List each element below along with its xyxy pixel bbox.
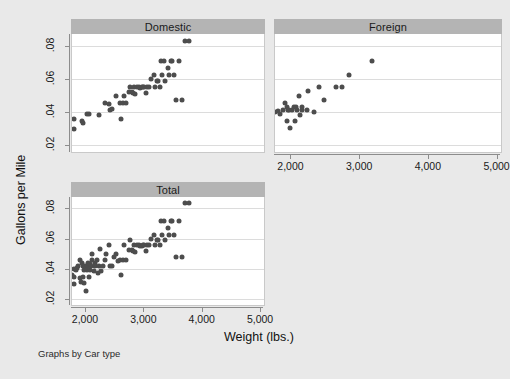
y-tick-label-0: .02 (44, 287, 56, 309)
data-point (177, 219, 182, 224)
data-point (339, 84, 344, 89)
graph-note: Graphs by Car type (38, 348, 120, 359)
data-point (316, 84, 321, 89)
y-tick-2 (65, 239, 69, 240)
data-point (84, 289, 89, 294)
stata-graph-canvas: Gallons per Mile Weight (lbs.) Graphs by… (0, 0, 510, 379)
data-point (81, 120, 86, 125)
data-point (124, 101, 129, 106)
gridline-y-3 (275, 46, 501, 47)
data-point (133, 91, 138, 96)
data-point (162, 219, 167, 224)
data-point (170, 58, 175, 63)
data-point (114, 93, 119, 98)
x-tick-3 (497, 155, 498, 159)
x-tick-label-3: 5,000 (238, 313, 282, 325)
data-point (97, 112, 102, 117)
x-tick-label-2: 4,000 (406, 160, 450, 172)
data-point (152, 73, 157, 78)
x-tick-0 (290, 155, 291, 159)
data-point (322, 97, 327, 102)
data-point (143, 248, 148, 253)
y-tick-0 (65, 299, 69, 300)
panel-title-domestic: Domestic (71, 19, 265, 34)
y-tick-label-0: .02 (44, 133, 56, 155)
x-axis-line-foreign (274, 154, 500, 155)
data-point (127, 238, 132, 243)
data-point (72, 117, 77, 122)
data-point (334, 84, 339, 89)
data-point (162, 58, 167, 63)
data-point (173, 255, 178, 260)
y-tick-label-1: .04 (44, 100, 56, 122)
data-point (177, 58, 182, 63)
y-tick-2 (65, 79, 69, 80)
y-tick-0 (65, 145, 69, 146)
data-point (305, 89, 310, 94)
data-point (156, 79, 161, 84)
x-tick-label-3: 5,000 (475, 160, 510, 172)
data-point (107, 243, 112, 248)
data-point (86, 275, 91, 280)
panel-domestic: Domestic (71, 19, 265, 153)
data-point (82, 281, 87, 286)
y-tick-label-1: .04 (44, 257, 56, 279)
y-axis-line-total (69, 197, 70, 305)
x-tick-label-1: 3,000 (121, 313, 165, 325)
data-point (186, 201, 191, 206)
plot-area-foreign (274, 34, 502, 153)
gridline-y-2 (275, 79, 501, 80)
data-point (173, 97, 178, 102)
x-axis-title: Weight (lbs.) (224, 330, 294, 344)
data-point (297, 93, 302, 98)
data-point (119, 273, 124, 278)
panel-total: Total (71, 182, 265, 306)
data-point (165, 226, 170, 231)
data-point (98, 247, 103, 252)
data-point (312, 110, 317, 115)
y-tick-1 (65, 112, 69, 113)
data-point (99, 269, 104, 274)
data-point (170, 219, 175, 224)
x-tick-2 (428, 155, 429, 159)
data-point (369, 58, 374, 63)
data-point (179, 97, 184, 102)
gridline-y-0 (275, 145, 501, 146)
data-point (152, 232, 157, 237)
x-tick-2 (202, 308, 203, 312)
gridline-y-0 (72, 145, 264, 146)
panel-foreign: Foreign (274, 19, 502, 153)
data-point (90, 251, 95, 256)
data-point (288, 126, 293, 131)
gridline-y-3 (72, 46, 264, 47)
data-point (163, 238, 168, 243)
data-point (157, 243, 162, 248)
data-point (104, 251, 109, 256)
data-point (71, 282, 76, 287)
data-point (298, 112, 303, 117)
y-tick-3 (65, 46, 69, 47)
data-point (124, 258, 129, 263)
data-point (114, 251, 119, 256)
y-tick-3 (65, 208, 69, 209)
y-tick-label-3: .08 (44, 196, 56, 218)
data-point (171, 232, 176, 237)
data-point (86, 112, 91, 117)
data-point (94, 258, 99, 263)
x-axis-line-total (71, 307, 263, 308)
x-tick-1 (143, 308, 144, 312)
data-point (80, 275, 85, 280)
x-tick-label-0: 2,000 (63, 313, 107, 325)
data-point (133, 249, 138, 254)
data-point (143, 90, 148, 95)
data-point (121, 243, 126, 248)
y-axis-title: Gallons per Mile (14, 155, 28, 245)
x-tick-0 (85, 308, 86, 312)
x-tick-label-1: 3,000 (337, 160, 381, 172)
y-tick-label-2: .06 (44, 67, 56, 89)
data-point (160, 73, 165, 78)
x-tick-1 (359, 155, 360, 159)
data-point (305, 107, 310, 112)
data-point (285, 119, 290, 124)
data-point (103, 258, 108, 263)
